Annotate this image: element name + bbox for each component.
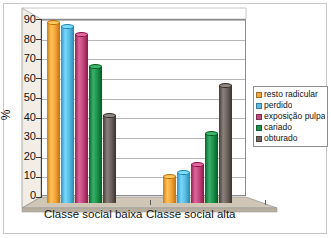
y-axis-tick — [36, 98, 42, 99]
legend-label: cariado — [264, 123, 292, 132]
bar-top-cap — [61, 24, 74, 29]
bar-body — [61, 27, 74, 203]
bar-body — [177, 173, 190, 203]
legend-swatch-icon — [256, 114, 262, 120]
bar[interactable] — [177, 170, 190, 203]
x-tick-label-classe-social-baixa: Classe social baixa — [44, 208, 142, 220]
bar-body — [219, 86, 232, 203]
bar-body — [205, 134, 218, 203]
y-axis-tick — [36, 197, 42, 198]
bar-body — [163, 177, 176, 203]
legend-label: resto radicular — [264, 90, 318, 99]
legend-item[interactable]: resto radicular — [256, 89, 325, 100]
bar[interactable] — [89, 64, 102, 203]
y-axis-tick — [36, 177, 42, 178]
legend-label: obturado — [264, 134, 298, 143]
bar-body — [47, 23, 60, 203]
bar-body — [103, 116, 116, 203]
y-axis-tick — [36, 19, 42, 20]
bar-top-cap — [205, 131, 218, 136]
legend-label: perdido — [264, 101, 292, 110]
bar-top-cap — [89, 64, 102, 69]
legend-swatch-icon — [256, 92, 262, 98]
legend-label: exposição pulpar — [264, 112, 325, 121]
bar[interactable] — [205, 131, 218, 203]
x-tick-label-classe-social-alta: Classe social alta — [146, 208, 235, 220]
bar-top-cap — [103, 113, 116, 118]
y-axis-tick — [36, 78, 42, 79]
bar-body — [75, 35, 88, 203]
x-axis-tick — [150, 200, 151, 205]
bar-top-cap — [47, 20, 60, 25]
y-axis-tick — [36, 59, 42, 60]
bar-top-cap — [75, 32, 88, 37]
bar[interactable] — [61, 24, 74, 203]
legend-item[interactable]: obturado — [256, 133, 325, 144]
chart-figure: 90 80 70 60 50 40 30 20 10 0 % Classe so… — [0, 0, 331, 238]
legend-item[interactable]: perdido — [256, 100, 325, 111]
y-axis-tick — [36, 118, 42, 119]
bar[interactable] — [75, 32, 88, 203]
legend-item[interactable]: cariado — [256, 122, 325, 133]
bar-body — [89, 67, 102, 203]
legend-swatch-icon — [256, 136, 262, 142]
x-axis-tick — [265, 200, 266, 205]
bar-body — [191, 165, 204, 203]
y-axis-tick — [36, 157, 42, 158]
chart-legend[interactable]: resto radicularperdidoexposição pulparca… — [253, 86, 328, 147]
bar[interactable] — [219, 83, 232, 203]
bar[interactable] — [163, 174, 176, 203]
y-axis-tick — [36, 39, 42, 40]
legend-swatch-icon — [256, 103, 262, 109]
legend-item[interactable]: exposição pulpar — [256, 111, 325, 122]
bar[interactable] — [103, 113, 116, 203]
y-axis-tick — [36, 138, 42, 139]
bar[interactable] — [47, 20, 60, 203]
legend-swatch-icon — [256, 125, 262, 131]
bar[interactable] — [191, 162, 204, 203]
